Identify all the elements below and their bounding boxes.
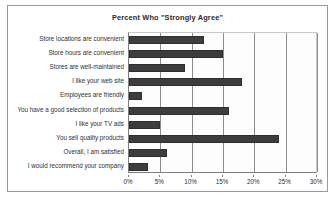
bar bbox=[129, 64, 185, 72]
bar bbox=[129, 36, 204, 44]
value-tick-label: 5% bbox=[155, 178, 164, 185]
value-tick-label: 10% bbox=[184, 178, 197, 185]
value-tick-label: 15% bbox=[216, 178, 229, 185]
gridline bbox=[254, 33, 255, 172]
bar-row bbox=[129, 61, 185, 75]
category-label: I like your web site bbox=[72, 77, 124, 85]
tick-mark bbox=[191, 175, 192, 177]
bar bbox=[129, 135, 279, 143]
bar-row bbox=[129, 118, 160, 132]
tick-mark bbox=[159, 175, 160, 177]
bar-row bbox=[129, 104, 229, 118]
value-axis-labels: 0%5%10%15%20%25%30% bbox=[128, 175, 318, 187]
bar bbox=[129, 149, 167, 157]
value-tick-label: 25% bbox=[278, 178, 291, 185]
bar-row bbox=[129, 47, 223, 61]
category-label: Employees are friendly bbox=[60, 91, 124, 99]
tick-mark bbox=[128, 175, 129, 177]
bar-row bbox=[129, 75, 242, 89]
category-label: Stores are well-maintained bbox=[49, 63, 124, 71]
bar-row bbox=[129, 89, 142, 103]
category-label: I like your TV ads bbox=[75, 120, 124, 128]
category-label: You sell quality products bbox=[56, 134, 124, 142]
bar-row bbox=[129, 33, 204, 47]
category-label: Store locations are convenient bbox=[39, 35, 124, 43]
value-tick-label: 20% bbox=[247, 178, 260, 185]
bar bbox=[129, 50, 223, 58]
value-tick-label: 0% bbox=[123, 178, 132, 185]
gridline bbox=[223, 33, 224, 172]
category-label: You have a good selection of products bbox=[17, 106, 124, 114]
category-label: Overall, I am satisfied bbox=[63, 148, 124, 156]
bar bbox=[129, 121, 160, 129]
bar bbox=[129, 78, 242, 86]
plot-area bbox=[128, 32, 317, 173]
category-axis-labels: Store locations are convenientStore hour… bbox=[8, 32, 126, 173]
chart-frame: Percent Who "Strongly Agree" Store locat… bbox=[7, 5, 328, 192]
category-label: I would recommend your company bbox=[28, 162, 124, 170]
bar bbox=[129, 163, 148, 171]
gridline bbox=[317, 33, 318, 172]
bar bbox=[129, 92, 142, 100]
tick-mark bbox=[253, 175, 254, 177]
tick-mark bbox=[316, 175, 317, 177]
value-tick-label: 30% bbox=[310, 178, 323, 185]
tick-mark bbox=[285, 175, 286, 177]
bar bbox=[129, 107, 229, 115]
bar-row bbox=[129, 146, 167, 160]
bar-row bbox=[129, 132, 279, 146]
chart-title: Percent Who "Strongly Agree" bbox=[8, 13, 327, 22]
bar-row bbox=[129, 160, 148, 174]
category-label: Store hours are convenient bbox=[48, 49, 124, 57]
gridline bbox=[286, 33, 287, 172]
tick-mark bbox=[222, 175, 223, 177]
